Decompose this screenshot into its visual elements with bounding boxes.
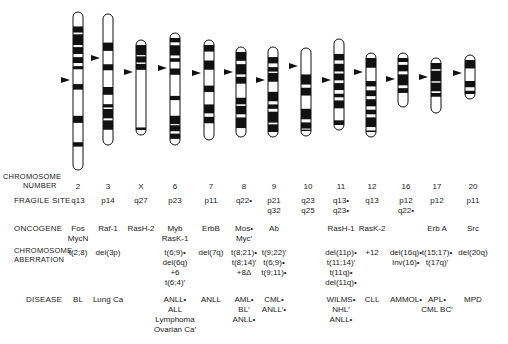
disease-value: ANLL• bbox=[326, 315, 355, 325]
disease-cell: CLL bbox=[365, 295, 380, 305]
aberration-cell: t(15;17)•t(17q)′ bbox=[422, 248, 452, 268]
fragile-site-value: q27 bbox=[134, 196, 147, 206]
fragile-site-cell: q13 bbox=[71, 196, 84, 206]
fragile-site-value: p21 bbox=[267, 196, 280, 206]
ideogram-chr-10 bbox=[289, 48, 311, 136]
aberration-value: +8Δ bbox=[231, 268, 257, 278]
oncogene-cell: Erb A bbox=[427, 224, 447, 234]
oncogene-cell: Ab bbox=[269, 224, 279, 234]
label-chromosome-2: CHROMOSOME bbox=[14, 246, 72, 255]
fragile-site-arrow-icon bbox=[453, 70, 462, 76]
aberration-value: t(11;14)′ bbox=[325, 258, 357, 268]
disease-value: BL bbox=[73, 295, 83, 305]
disease-value: BL′ bbox=[233, 305, 256, 315]
oncogene-cell: ErbB bbox=[202, 224, 220, 234]
ideogram-chr-8 bbox=[224, 47, 246, 137]
row-label-aberration: CHROMOSOME ABERRATION bbox=[14, 246, 72, 264]
oncogene-value: Raf-1 bbox=[98, 224, 118, 234]
oncogene-cell: RasK-2 bbox=[359, 224, 386, 234]
ideogram-chr-17 bbox=[419, 58, 441, 113]
fragile-site-arrow-icon bbox=[386, 76, 395, 82]
fragile-site-arrow-icon bbox=[289, 63, 298, 69]
fragile-site-arrow-icon bbox=[91, 55, 100, 61]
label-aberration: ABERRATION bbox=[14, 255, 72, 264]
aberration-value: +6 bbox=[163, 268, 188, 278]
oncogene-cell: Raf-1 bbox=[98, 224, 118, 234]
aberration-value: del(11q)• bbox=[325, 278, 357, 288]
fragile-site-value: p12 bbox=[398, 196, 414, 206]
aberration-cell: t(2;8) bbox=[69, 248, 88, 258]
fragile-site-cell: p14 bbox=[101, 196, 114, 206]
disease-value: CML• bbox=[262, 295, 286, 305]
chromosome-number: 9 bbox=[272, 182, 276, 192]
fragile-site-value: p11 bbox=[467, 196, 480, 206]
aberration-value: t(6;9)• bbox=[261, 258, 286, 268]
fragile-site-cell: p12 bbox=[430, 196, 443, 206]
fragile-site-arrow-icon bbox=[192, 70, 201, 76]
fragile-site-arrow-icon bbox=[224, 69, 233, 75]
ideogram-chr-3 bbox=[91, 14, 113, 145]
disease-cell: AML•BL′ANLL• bbox=[233, 295, 256, 325]
chromosome-number: X bbox=[138, 182, 143, 192]
oncogene-value: Erb A bbox=[427, 224, 447, 234]
oncogene-value: ErbB bbox=[202, 224, 220, 234]
fragile-site-arrow-icon bbox=[158, 65, 167, 71]
oncogene-value: Ab bbox=[269, 224, 279, 234]
chromosome-number: 8 bbox=[242, 182, 246, 192]
chromosome-number: 12 bbox=[368, 182, 377, 192]
oncogene-value: Src bbox=[467, 224, 479, 234]
ideogram-chr-7 bbox=[192, 40, 214, 140]
fragile-site-value: q13 bbox=[365, 196, 378, 206]
row-label-fragile-site: FRAGILE SITE bbox=[14, 196, 71, 205]
fragile-site-arrow-icon bbox=[322, 77, 331, 83]
aberration-cell: del(7q) bbox=[199, 248, 224, 258]
aberration-value: t(8;21)• bbox=[231, 248, 257, 258]
fragile-site-value: p14 bbox=[101, 196, 114, 206]
aberration-value: del(20q) bbox=[458, 248, 487, 258]
aberration-cell: del(20q) bbox=[458, 248, 487, 258]
aberration-value: t(2;8) bbox=[69, 248, 88, 258]
oncogene-cell: Src bbox=[467, 224, 479, 234]
label-chromosome: CHROMOSOME bbox=[3, 172, 61, 181]
fragile-site-cell: q22• bbox=[236, 196, 252, 206]
fragile-site-value: q13• bbox=[333, 196, 349, 206]
aberration-value: del(11p)• bbox=[325, 248, 357, 258]
chromosome-number: 3 bbox=[106, 182, 110, 192]
disease-cell: Lung Ca bbox=[93, 295, 123, 305]
chromosome-number: 16 bbox=[402, 182, 411, 192]
disease-value: MPD bbox=[464, 295, 482, 305]
aberration-value: t(9;22)′ bbox=[261, 248, 286, 258]
aberration-cell: t(6;9)•del(6q)+6t(6;4)′ bbox=[163, 248, 188, 288]
oncogene-value: Mos• bbox=[235, 224, 253, 234]
oncogene-value: RasK-2 bbox=[359, 224, 386, 234]
aberration-value: t(9;11)• bbox=[261, 268, 286, 278]
disease-value: Lymphoma bbox=[154, 315, 196, 325]
chromosome-ideograms bbox=[0, 0, 508, 175]
ideogram-chr-6 bbox=[158, 33, 180, 145]
fragile-site-cell: q23q25 bbox=[301, 196, 314, 216]
aberration-value: t(11q)• bbox=[325, 268, 357, 278]
fragile-site-value: p23 bbox=[168, 196, 181, 206]
disease-cell: MPD bbox=[464, 295, 482, 305]
aberration-cell: t(8;21)•t(8;14)′+8Δ bbox=[231, 248, 257, 278]
ideogram-chr-20 bbox=[453, 55, 475, 99]
oncogene-cell: MybRasK-1 bbox=[162, 224, 189, 244]
fragile-site-cell: p12q22• bbox=[398, 196, 414, 216]
disease-value: ALL bbox=[154, 305, 196, 315]
chromosome-number: 7 bbox=[209, 182, 213, 192]
disease-cell: WILMS•NHL′ANLL• bbox=[326, 295, 355, 325]
aberration-cell: del(16q)•inv(16)• bbox=[390, 248, 422, 268]
ideogram-chr-11 bbox=[322, 39, 344, 130]
aberration-value: del(6q) bbox=[163, 258, 188, 268]
oncogene-cell: FosMycN bbox=[68, 224, 88, 244]
fragile-site-arrow-icon bbox=[61, 77, 70, 83]
disease-value: AMMOL• bbox=[390, 295, 422, 305]
aberration-value: t(8;14)′ bbox=[231, 258, 257, 268]
row-label-disease: DISEASE bbox=[26, 295, 62, 304]
ideogram-chr-9 bbox=[256, 47, 278, 137]
oncogene-value: MycN bbox=[68, 234, 88, 244]
disease-value: NHL′ bbox=[326, 305, 355, 315]
chromosome-number: 6 bbox=[173, 182, 177, 192]
aberration-value: inv(16)• bbox=[390, 258, 422, 268]
chromosome-number: 2 bbox=[76, 182, 80, 192]
